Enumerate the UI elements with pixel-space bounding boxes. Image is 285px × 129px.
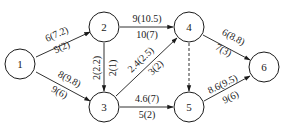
- node-5: 5: [174, 92, 204, 122]
- edge-2-4: 9(10.5) 10(7): [120, 13, 173, 41]
- node-2-label: 2: [101, 21, 107, 33]
- edges: 6(7.2) 5(2) 8(9.8) 9(6) 9(10.5) 10(7) 2(…: [36, 13, 250, 121]
- node-2: 2: [89, 12, 119, 42]
- node-5-label: 5: [186, 101, 192, 113]
- node-6: 6: [249, 52, 279, 82]
- edge-1-2-bottom-label: 5(2): [52, 38, 72, 56]
- node-3: 3: [89, 92, 119, 122]
- node-6-label: 6: [261, 61, 267, 73]
- edge-3-4: 2.4(2.5) 3(2): [116, 38, 177, 96]
- edge-3-5-top-label: 4.6(7): [135, 93, 159, 105]
- edge-5-6-bottom-label: 9(6): [221, 88, 241, 106]
- edge-3-5-bottom-label: 5(2): [139, 109, 156, 121]
- edge-2-3: 2(2.2) 2(1): [91, 43, 119, 91]
- edge-2-3-bottom-label: 2(1): [107, 60, 119, 77]
- node-1-label: 1: [17, 58, 23, 70]
- node-4-label: 4: [186, 21, 192, 33]
- node-4: 4: [174, 12, 204, 42]
- edge-2-4-top-label: 9(10.5): [132, 13, 161, 25]
- edge-3-4-bottom-label: 3(2): [146, 58, 166, 78]
- edge-1-3-bottom-label: 9(6): [49, 83, 69, 101]
- edge-2-3-top-label: 2(2.2): [91, 56, 103, 80]
- edge-4-6: 6(8.8) 7(3): [203, 26, 250, 60]
- edge-1-3: 8(9.8) 9(6): [36, 68, 90, 101]
- edge-4-6-bottom-label: 7(3): [213, 41, 233, 59]
- node-1: 1: [5, 49, 35, 79]
- edge-2-4-bottom-label: 10(7): [136, 29, 158, 41]
- node-3-label: 3: [101, 101, 107, 113]
- edge-5-6: 8.6(9.5) 9(6): [204, 72, 250, 106]
- edge-3-5: 4.6(7) 5(2): [120, 93, 173, 121]
- flow-network-diagram: 6(7.2) 5(2) 8(9.8) 9(6) 9(10.5) 10(7) 2(…: [0, 0, 285, 129]
- edge-1-2: 6(7.2) 5(2): [36, 24, 90, 57]
